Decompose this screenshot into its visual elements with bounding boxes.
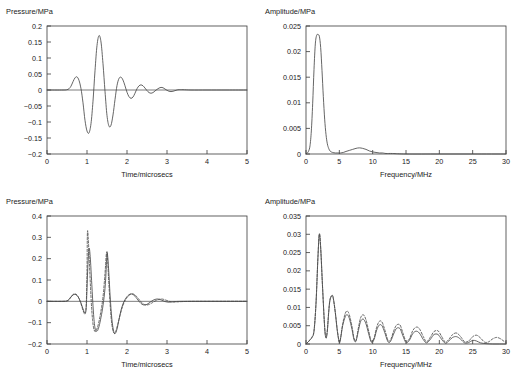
data-trace-solid [47, 36, 247, 134]
y-tick-label: 0.3 [32, 233, 42, 242]
y-tick-label: 0.02 [287, 266, 301, 275]
y-axis-title: Pressure/MPa [6, 7, 54, 16]
x-tick-label: 25 [469, 347, 477, 356]
x-tick-label: 30 [502, 157, 510, 166]
plot-bottom-left: Pressure/MPa−0.2−0.100.10.20.30.4012345T… [0, 190, 259, 380]
plot-panel-bottom-right: Amplitude/MPa00.0050.010.0150.020.0250.0… [259, 190, 518, 380]
y-tick-label: 0.05 [28, 70, 42, 79]
x-tick-label: 1 [85, 347, 89, 356]
x-tick-label: 0 [45, 157, 49, 166]
y-tick-label: 0 [38, 86, 42, 95]
x-axis-title: Time/microsecs [121, 360, 173, 369]
y-tick-label: 0.035 [283, 212, 301, 221]
x-tick-label: 4 [205, 157, 209, 166]
data-trace-dashed [47, 231, 247, 334]
x-tick-label: 3 [165, 347, 169, 356]
y-tick-label: −0.2 [28, 340, 42, 349]
y-axis-title: Pressure/MPa [6, 197, 54, 206]
x-tick-label: 30 [502, 347, 510, 356]
y-tick-label: 0.1 [32, 276, 42, 285]
y-tick-label: −0.1 [28, 118, 42, 127]
y-tick-label: 0.4 [32, 212, 42, 221]
y-tick-label: 0.025 [283, 22, 301, 31]
y-tick-label: −0.2 [28, 150, 42, 159]
y-tick-label: 0.2 [32, 254, 42, 263]
y-tick-label: 0.005 [283, 321, 301, 330]
y-axis-title: Amplitude/MPa [265, 197, 316, 206]
x-tick-label: 0 [304, 157, 308, 166]
plot-top-left: Pressure/MPa−0.2−0.15−0.1−0.0500.050.10.… [0, 0, 259, 190]
y-tick-label: 0.2 [32, 22, 42, 31]
y-tick-label: −0.05 [24, 102, 42, 111]
x-tick-label: 5 [337, 157, 341, 166]
x-axis-title: Time/microsecs [121, 170, 173, 179]
y-tick-label: 0.15 [28, 38, 42, 47]
x-tick-label: 15 [402, 347, 410, 356]
plot-panel-top-left: Pressure/MPa−0.2−0.15−0.1−0.0500.050.10.… [0, 0, 259, 190]
figure-canvas: Pressure/MPa−0.2−0.15−0.1−0.0500.050.10.… [0, 0, 518, 380]
x-tick-label: 10 [369, 347, 377, 356]
x-tick-label: 0 [45, 347, 49, 356]
y-tick-label: 0 [297, 150, 301, 159]
x-tick-label: 25 [469, 157, 477, 166]
y-tick-label: 0.015 [283, 285, 301, 294]
x-tick-label: 0 [304, 347, 308, 356]
x-tick-label: 3 [165, 157, 169, 166]
y-tick-label: 0 [297, 340, 301, 349]
plot-top-right: Amplitude/MPa00.0050.010.0150.020.025051… [259, 0, 518, 190]
x-tick-label: 5 [337, 347, 341, 356]
y-tick-label: 0.02 [287, 47, 301, 56]
y-tick-label: 0.025 [283, 248, 301, 257]
y-tick-label: 0.015 [283, 73, 301, 82]
x-tick-label: 4 [205, 347, 209, 356]
x-tick-label: 2 [125, 157, 129, 166]
data-trace-solid [306, 234, 506, 344]
x-axis-title: Frequency/MHz [380, 360, 432, 369]
data-trace-dashed [306, 234, 506, 344]
data-trace-solid [306, 34, 506, 154]
y-tick-label: 0.01 [287, 98, 301, 107]
y-tick-label: 0.01 [287, 303, 301, 312]
x-tick-label: 1 [85, 157, 89, 166]
y-tick-label: 0.005 [283, 124, 301, 133]
plot-panel-bottom-left: Pressure/MPa−0.2−0.100.10.20.30.4012345T… [0, 190, 259, 380]
x-tick-label: 20 [435, 347, 443, 356]
x-tick-label: 2 [125, 347, 129, 356]
y-tick-label: −0.15 [24, 134, 42, 143]
x-tick-label: 5 [245, 157, 249, 166]
x-tick-label: 15 [402, 157, 410, 166]
x-tick-label: 5 [245, 347, 249, 356]
y-axis-title: Amplitude/MPa [265, 7, 316, 16]
y-tick-label: 0 [38, 297, 42, 306]
plot-frame [306, 26, 506, 154]
x-tick-label: 10 [369, 157, 377, 166]
plot-bottom-right: Amplitude/MPa00.0050.010.0150.020.0250.0… [259, 190, 518, 380]
y-tick-label: 0.1 [32, 54, 42, 63]
y-tick-label: 0.03 [287, 230, 301, 239]
plot-frame [47, 216, 247, 344]
y-tick-label: −0.1 [28, 318, 42, 327]
data-trace-solid [47, 248, 247, 334]
x-tick-label: 20 [435, 157, 443, 166]
plot-panel-top-right: Amplitude/MPa00.0050.010.0150.020.025051… [259, 0, 518, 190]
x-axis-title: Frequency/MHz [380, 170, 432, 179]
plot-frame [306, 216, 506, 344]
